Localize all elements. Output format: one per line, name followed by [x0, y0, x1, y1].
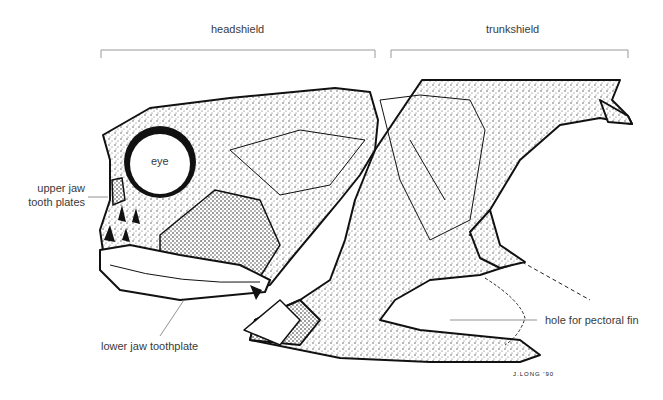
eye-label: eye	[151, 154, 169, 168]
fish-illustration	[0, 0, 663, 400]
trunkshield-label: trunkshield	[486, 22, 539, 36]
lower-jaw-toothplate-label: lower jaw toothplate	[101, 339, 198, 353]
headshield-bracket	[101, 50, 375, 58]
lower-jaw-leader	[160, 300, 184, 336]
upper-jaw-label-line1: upper jaw	[37, 181, 85, 195]
pectoral-fin-hole-label: hole for pectoral fin	[545, 313, 639, 327]
artist-signature: J.LONG '90	[513, 367, 554, 381]
pectoral-fin-dashed	[522, 262, 590, 300]
pectoral-hole-outline	[485, 278, 525, 345]
upper-jaw-label-line2: tooth plates	[28, 195, 85, 209]
trunkshield-bracket	[391, 50, 628, 58]
headshield-label: headshield	[211, 22, 264, 36]
